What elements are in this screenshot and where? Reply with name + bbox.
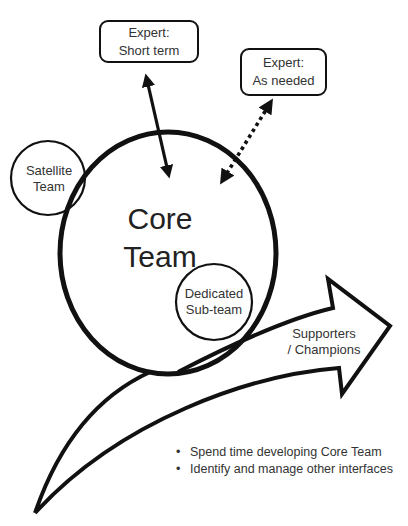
- dedicated-subteam-line1: Dedicated: [174, 286, 254, 302]
- satellite-team-label: Satellite Team: [14, 163, 84, 196]
- satellite-team-line1: Satellite: [14, 163, 84, 179]
- expert-as-needed-line2: As needed: [252, 72, 314, 90]
- expert-short-term-box: Expert: Short term: [99, 20, 199, 63]
- bullet-list: Spend time developing Core Team Identify…: [176, 444, 393, 478]
- solid-double-arrow-icon: [147, 80, 168, 172]
- supporters-line2: / Champions: [284, 342, 364, 358]
- supporters-line1: Supporters: [284, 326, 364, 342]
- dedicated-subteam-line2: Sub-team: [174, 302, 254, 318]
- bullet-item: Spend time developing Core Team: [176, 444, 393, 461]
- expert-short-term-line1: Expert:: [128, 24, 169, 42]
- supporters-label: Supporters / Champions: [284, 326, 364, 359]
- core-team-line2: Team: [100, 238, 220, 276]
- expert-as-needed-line1: Expert:: [263, 54, 304, 72]
- core-team-line1: Core: [100, 200, 220, 238]
- core-team-label: Core Team: [100, 200, 220, 275]
- dedicated-subteam-label: Dedicated Sub-team: [174, 286, 254, 319]
- expert-short-term-line2: Short term: [119, 42, 180, 60]
- satellite-team-line2: Team: [14, 179, 84, 195]
- bullet-item: Identify and manage other interfaces: [176, 461, 393, 478]
- expert-as-needed-box: Expert: As needed: [240, 48, 327, 96]
